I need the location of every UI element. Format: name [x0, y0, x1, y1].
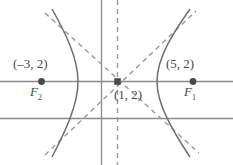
center-point-marker	[114, 78, 121, 85]
hyperbola-svg	[0, 0, 233, 165]
hyperbola-figure: (–3, 2) F2 (5, 2) F1 (1, 2)	[0, 0, 233, 165]
left-focus-name-letter: F	[30, 84, 38, 99]
right-focus-name-subscript: 1	[192, 93, 196, 102]
right-focus-coordinate-label: (5, 2)	[166, 57, 194, 70]
right-focus-name-label: F1	[184, 85, 196, 102]
left-focus-name-subscript: 2	[38, 93, 42, 102]
hyperbola-right-branch	[157, 9, 190, 157]
right-focus-name-letter: F	[184, 84, 192, 99]
center-coordinate-label: (1, 2)	[114, 88, 142, 101]
left-focus-point	[38, 78, 45, 85]
asymptote-negative-slope	[45, 13, 199, 153]
left-focus-name-label: F2	[30, 85, 42, 102]
left-focus-coordinate-label: (–3, 2)	[13, 57, 48, 70]
